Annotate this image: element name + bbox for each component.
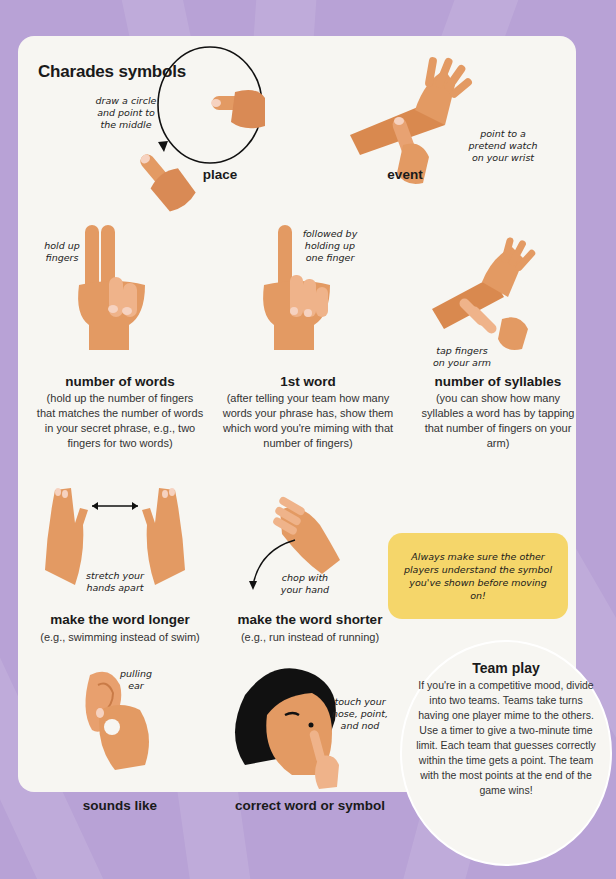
first-word-note: followed by holding up one finger [300,228,360,264]
sounds-like-label: sounds like [55,798,185,813]
tapping-arm-hand-icon [432,237,552,357]
place-label: place [190,167,250,182]
shorter-label: make the word shorter [220,612,400,627]
shorter-description: (e.g., run instead of running) [220,630,400,645]
team-play-panel: Team play If you're in a competitive moo… [400,640,612,866]
longer-note: stretch your hands apart [85,570,145,594]
team-play-title: Team play [412,660,600,676]
shorter-note: chop with your hand [270,572,340,596]
event-note: point to a pretend watch on your wrist [463,128,543,164]
wrist-pointing-hand-icon [345,55,485,185]
correct-note: touch your nose, point, and nod [330,696,390,732]
number-of-words-label: number of words [40,374,200,389]
two-fingers-hand-icon [75,225,155,350]
correct-label: correct word or symbol [220,798,400,813]
number-of-syllables-description: (you can show how many syllables a word … [418,391,578,451]
tip-callout: Always make sure the other players under… [388,533,568,619]
sounds-like-note: pulling ear [118,668,154,692]
longer-label: make the word longer [30,612,210,627]
number-of-words-description: (hold up the number of fingers that matc… [36,391,204,451]
number-of-syllables-note: tap fingers on your arm [432,345,492,369]
place-note: draw a circle and point to the middle [95,95,157,131]
first-word-label: 1st word [228,374,388,389]
event-label: event [375,167,435,182]
team-play-body: If you're in a competitive mood, divide … [412,678,600,798]
tip-callout-text: Always make sure the other players under… [402,550,554,602]
longer-description: (e.g., swimming instead of swim) [30,630,210,645]
first-word-description: (after telling your team how many words … [222,391,394,451]
number-of-words-note: hold up fingers [42,240,82,264]
number-of-syllables-label: number of syllables [418,374,578,389]
